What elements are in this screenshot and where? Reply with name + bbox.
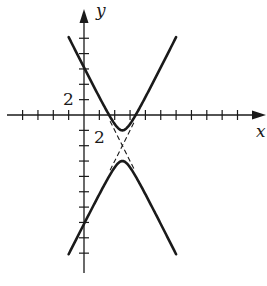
x-tick-label-2: 2: [94, 127, 105, 147]
hyperbola-graph: 2 2 y x: [0, 0, 267, 286]
x-axis-label: x: [256, 121, 266, 141]
y-axis-label: y: [95, 0, 106, 20]
y-axis-arrow-icon: [80, 9, 89, 23]
x-axis-arrow-icon: [252, 111, 266, 120]
axis-ticks: [23, 38, 238, 253]
y-tick-label-2: 2: [63, 89, 74, 109]
axes: [7, 9, 266, 273]
